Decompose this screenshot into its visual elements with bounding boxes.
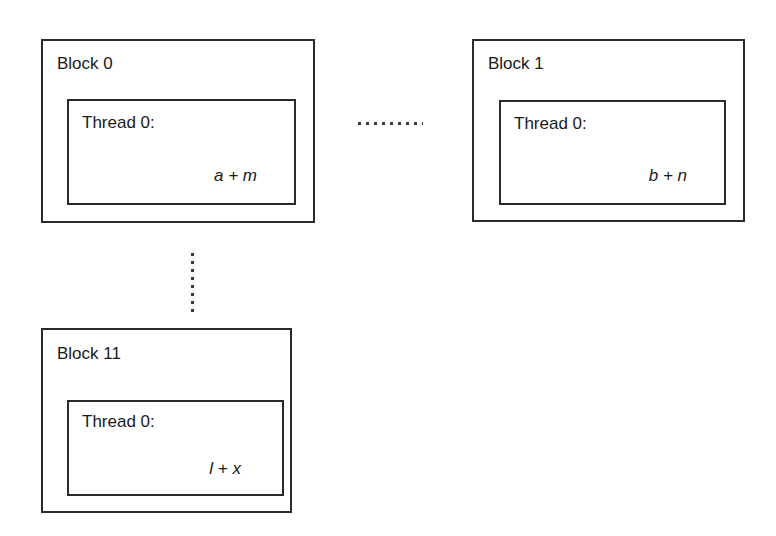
block-label-11: Block 11 bbox=[57, 344, 121, 364]
diagram-canvas: Block 0 Thread 0: a + m Block 1 Thread 0… bbox=[0, 0, 776, 536]
block-label-0: Block 0 bbox=[57, 54, 113, 74]
thread-expression-1-0: b + n bbox=[501, 166, 687, 186]
thread-label-11-0: Thread 0: bbox=[82, 412, 155, 432]
thread-expression-11-0: l + x bbox=[69, 459, 241, 479]
block-container-1: Block 1 Thread 0: b + n bbox=[472, 39, 745, 222]
block-label-1: Block 1 bbox=[488, 54, 544, 74]
thread-label-0-0: Thread 0: bbox=[82, 113, 155, 133]
thread-container-0-0: Thread 0: a + m bbox=[67, 99, 296, 205]
thread-label-1-0: Thread 0: bbox=[514, 114, 587, 134]
block-container-11: Block 11 Thread 0: l + x bbox=[41, 328, 292, 513]
block-container-0: Block 0 Thread 0: a + m bbox=[41, 39, 315, 223]
thread-expression-0-0: a + m bbox=[69, 166, 257, 186]
thread-container-1-0: Thread 0: b + n bbox=[499, 100, 726, 205]
thread-container-11-0: Thread 0: l + x bbox=[67, 400, 284, 496]
vertical-ellipsis-connector bbox=[191, 253, 194, 314]
horizontal-ellipsis-connector bbox=[358, 122, 423, 125]
